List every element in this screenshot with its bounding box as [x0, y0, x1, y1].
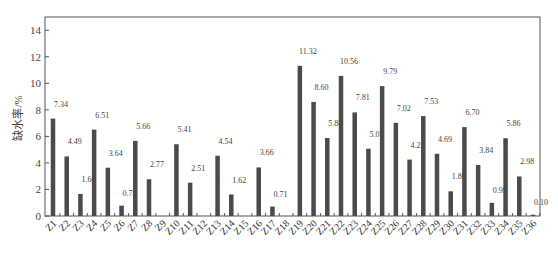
bar-z34 [503, 138, 508, 216]
value-label: 3.66 [260, 148, 274, 157]
value-label: 0.10 [534, 198, 548, 207]
value-label: 3.64 [109, 149, 123, 158]
bar-z11 [188, 183, 193, 216]
bar-z25 [380, 86, 385, 216]
x-axis: Z1Z2Z3Z4Z5Z6Z7Z8Z9Z10Z11Z12Z13Z14Z15Z16Z… [43, 213, 540, 237]
y-tick-label: 0 [36, 210, 42, 222]
value-label: 7.34 [54, 100, 68, 109]
value-label: 10.56 [340, 57, 358, 66]
value-label: 5.66 [136, 122, 150, 131]
bar-z35 [517, 176, 522, 216]
value-label: 9.79 [383, 67, 397, 76]
bar-chart: 02468101214 缺水率/% 7.344.491.666.513.640.… [0, 0, 558, 253]
bar-z28 [421, 116, 426, 216]
bar-z29 [435, 154, 440, 216]
value-label: 11.32 [299, 47, 317, 56]
y-tick-label: 2 [36, 183, 42, 195]
y-axis: 02468101214 [30, 24, 49, 222]
y-axis-label: 缺水率/% [11, 95, 24, 140]
bar-z19 [298, 66, 303, 216]
bar-z14 [229, 195, 234, 216]
y-tick-label: 4 [36, 157, 42, 169]
value-label: 4.69 [438, 135, 452, 144]
bar-z8 [147, 179, 152, 216]
bar-z4 [92, 130, 97, 216]
value-label: 7.02 [397, 104, 411, 113]
bar-z21 [325, 138, 330, 216]
bar-z32 [476, 165, 481, 216]
bar-z2 [64, 156, 69, 216]
bars: 7.344.491.666.513.640.785.662.775.412.51… [51, 47, 548, 216]
bar-z20 [311, 102, 316, 216]
value-label: 6.70 [465, 108, 479, 117]
value-label: 7.81 [356, 93, 370, 102]
value-label: 3.84 [479, 146, 493, 155]
value-label: 7.53 [424, 97, 438, 106]
value-label: 5.86 [507, 119, 521, 128]
value-label: 2.77 [150, 160, 164, 169]
bar-z17 [270, 207, 275, 216]
value-label: 8.60 [315, 83, 329, 92]
value-label: 1.62 [232, 176, 246, 185]
bar-z13 [215, 156, 220, 216]
bar-z23 [352, 112, 357, 216]
y-tick-label: 8 [36, 104, 42, 116]
value-label: 6.51 [95, 111, 109, 120]
bar-z22 [339, 76, 344, 216]
bar-z26 [394, 123, 399, 216]
value-label: 4.49 [68, 137, 82, 146]
bar-z7 [133, 141, 138, 216]
bar-z6 [119, 206, 124, 216]
bar-z24 [366, 149, 371, 216]
bar-z10 [174, 144, 179, 216]
bar-z3 [78, 194, 83, 216]
value-label: 5.41 [177, 125, 191, 134]
bar-z30 [448, 191, 453, 216]
bar-z31 [462, 127, 467, 216]
y-tick-label: 12 [30, 51, 41, 63]
bar-z36 [531, 215, 536, 216]
bar-z16 [256, 167, 261, 216]
value-label: 4.54 [219, 137, 233, 146]
value-label: 2.98 [520, 157, 534, 166]
value-label: 2.51 [191, 164, 205, 173]
bar-z27 [407, 160, 412, 216]
y-tick-label: 14 [30, 24, 42, 36]
x-tick-label: Z36 [519, 218, 538, 237]
value-label: 0.71 [273, 190, 287, 199]
bar-z33 [490, 203, 495, 216]
bar-z5 [106, 168, 111, 216]
y-tick-label: 6 [36, 130, 42, 142]
y-tick-label: 10 [30, 77, 42, 89]
bar-z1 [51, 119, 56, 216]
